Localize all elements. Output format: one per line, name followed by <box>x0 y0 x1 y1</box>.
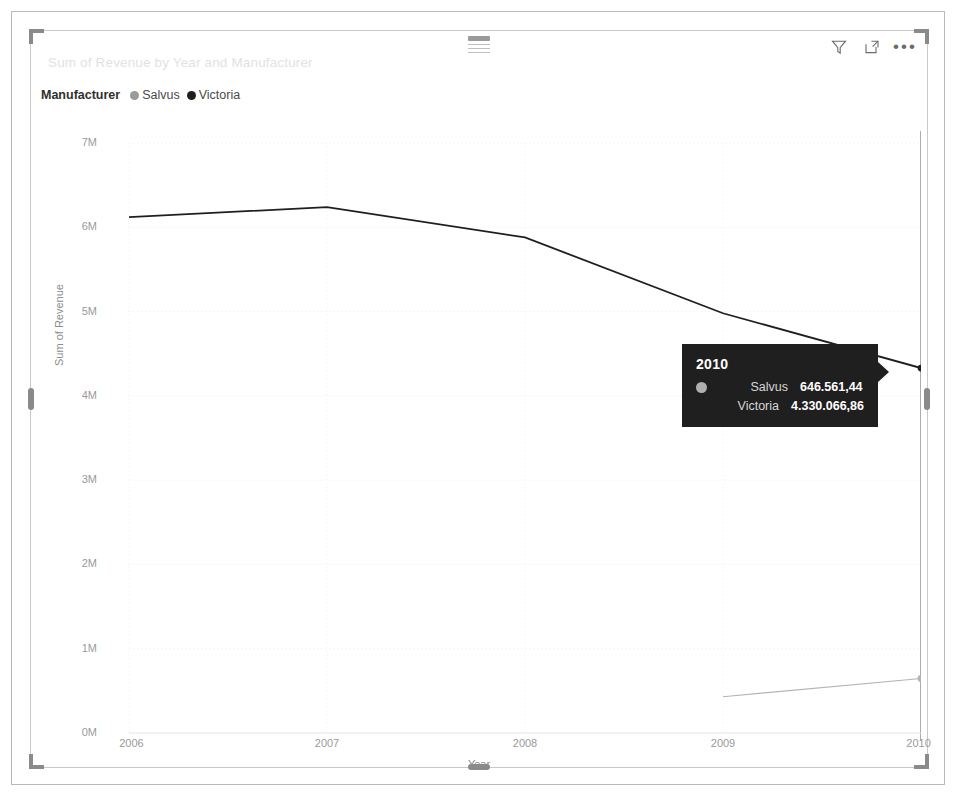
resize-handle-bottom-right[interactable] <box>914 754 929 769</box>
legend-label-victoria: Victoria <box>199 88 240 102</box>
resize-handle-top-left[interactable] <box>29 29 44 44</box>
screenshot-root: ••• Sum of Revenue by Year and Manufactu… <box>0 0 958 798</box>
x-axis-tick-label: 2009 <box>711 737 735 749</box>
line-chart-visual[interactable]: ••• Sum of Revenue by Year and Manufactu… <box>30 30 928 768</box>
resize-handle-bottom-left[interactable] <box>29 754 44 769</box>
x-axis-tick-label: 2007 <box>315 737 339 749</box>
tooltip-row-salvus: Salvus 646.561,44 <box>696 380 864 394</box>
x-axis-tick-label: 2006 <box>119 737 143 749</box>
grip-line-1 <box>468 36 490 41</box>
resize-handle-left[interactable] <box>28 388 34 410</box>
resize-handle-right[interactable] <box>924 388 930 410</box>
grip-line-2 <box>468 44 490 45</box>
focus-mode-icon[interactable] <box>862 37 882 57</box>
legend-item-salvus[interactable]: Salvus <box>130 88 180 102</box>
more-options-icon[interactable]: ••• <box>895 37 915 57</box>
resize-handle-top-right[interactable] <box>914 29 929 44</box>
plot-area[interactable] <box>91 121 921 741</box>
x-axis-tick-label: 2008 <box>513 737 537 749</box>
grip-line-4 <box>468 52 490 53</box>
tooltip-value-salvus: 646.561,44 <box>800 380 863 394</box>
legend-dot-victoria <box>187 91 196 100</box>
chart-canvas <box>91 121 921 741</box>
grip-line-3 <box>468 48 490 49</box>
tooltip-dot-salvus <box>696 382 707 393</box>
tooltip-arrow <box>877 361 889 383</box>
legend-label-salvus: Salvus <box>142 88 180 102</box>
tooltip-dot-victoria <box>696 401 707 412</box>
tooltip-value-victoria: 4.330.066,86 <box>791 399 864 413</box>
x-axis-tick-label: 2010 <box>906 737 930 749</box>
tooltip-row-victoria: Victoria 4.330.066,86 <box>696 399 864 413</box>
tooltip-name-salvus: Salvus <box>714 380 788 394</box>
legend-dot-salvus <box>130 91 139 100</box>
tooltip-title: 2010 <box>696 356 864 372</box>
visual-drag-handle[interactable] <box>466 35 492 55</box>
resize-handle-bottom[interactable] <box>468 764 490 770</box>
visual-header-actions: ••• <box>829 37 915 57</box>
legend-item-victoria[interactable]: Victoria <box>187 88 240 102</box>
tooltip-name-victoria: Victoria <box>714 399 779 413</box>
filter-icon[interactable] <box>829 37 849 57</box>
hover-tooltip: 2010 Salvus 646.561,44 Victoria 4.330.06… <box>682 344 878 427</box>
